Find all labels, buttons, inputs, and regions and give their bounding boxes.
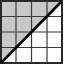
grid-diagram [0,0,67,72]
